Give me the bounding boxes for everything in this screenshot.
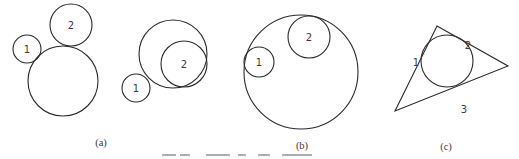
panel-c-tangent-point-1-label: 1: [413, 57, 419, 68]
panel-a2-circle-1-label: 1: [133, 83, 139, 94]
panel-b-large-circle: [244, 15, 358, 129]
tangent-circles-diagram: 1 2 2 1 (a) 1 2 (b) 1 2 3 (c): [0, 0, 519, 159]
caption-fragment: [238, 154, 246, 156]
caption-fragment: [206, 154, 230, 156]
panel-b-group: 1 2: [244, 15, 358, 129]
panel-a-caption: (a): [95, 137, 107, 149]
panel-c-caption: (c): [440, 141, 452, 153]
panel-c-triangle: [395, 26, 508, 111]
panel-a-internal-group: 2 1: [122, 20, 207, 102]
panel-a2-circle-2-label: 2: [181, 59, 187, 70]
panel-c-group: 1 2 3: [395, 26, 508, 115]
panel-a-circle-1-label: 1: [24, 44, 30, 55]
panel-a-circle-2-label: 2: [68, 20, 74, 31]
panel-b-circle-2-label: 2: [306, 32, 312, 43]
caption-fragment: [180, 154, 190, 156]
panel-a2-large-circle: [139, 20, 207, 88]
panel-a-external-group: 1 2: [13, 4, 98, 116]
panel-c-tangent-point-3-label: 3: [461, 104, 467, 115]
panel-c-tangent-point-2-label: 2: [465, 40, 471, 51]
caption-fragment: [162, 154, 176, 156]
panel-b-circle-1-label: 1: [256, 57, 262, 68]
figure-caption-cutoff: [0, 154, 519, 159]
caption-fragment: [282, 154, 312, 156]
panel-b-caption: (b): [296, 140, 309, 152]
caption-fragment: [258, 154, 270, 156]
